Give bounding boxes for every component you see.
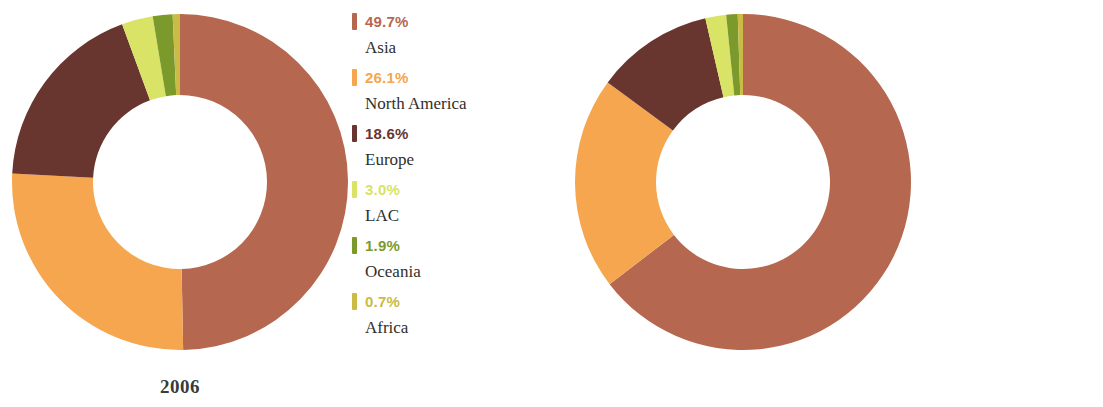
legend-item[interactable]: 18.6%Europe: [352, 120, 467, 176]
legend-item[interactable]: 26.1%North America: [352, 64, 467, 120]
legend-region-label: Oceania: [352, 259, 467, 288]
legend-percent-value: 18.6%: [365, 125, 409, 142]
donut-segment[interactable]: [12, 24, 150, 177]
legend-percent-line: 1.9%: [352, 232, 467, 259]
legend-item[interactable]: 3.0%LAC: [352, 176, 467, 232]
legend-percent-value: 3.0%: [365, 181, 400, 198]
donut-svg-2016: [573, 0, 913, 360]
donut-chart-figure: 2006 49.7%Asia26.1%North America18.6%Eur…: [0, 0, 1103, 407]
legend-swatch-icon: [352, 293, 357, 310]
legend-item[interactable]: 49.7%Asia: [352, 8, 467, 64]
legend-region-label: LAC: [352, 203, 467, 232]
legend-region-label: Europe: [352, 147, 467, 176]
legend-item[interactable]: 0.7%Africa: [352, 288, 467, 344]
chart-year-label-2006: 2006: [120, 376, 240, 398]
legend-percent-line: 3.0%: [352, 176, 467, 203]
chart-panel-2006: 2006 49.7%Asia26.1%North America18.6%Eur…: [0, 0, 560, 407]
chart-panel-2016: 2016 64.6%Asia20.5%North America11.3%Eur…: [560, 0, 1103, 407]
legend-percent-value: 49.7%: [365, 13, 409, 30]
legend-percent-value: 1.9%: [365, 237, 400, 254]
legend-swatch-icon: [352, 237, 357, 254]
legend-region-label: Africa: [352, 315, 467, 344]
legend-item[interactable]: 1.9%Oceania: [352, 232, 467, 288]
legend-swatch-icon: [352, 13, 357, 30]
legend-swatch-icon: [352, 125, 357, 142]
legend-region-label: Asia: [352, 35, 467, 64]
legend-swatch-icon: [352, 181, 357, 198]
legend-percent-line: 26.1%: [352, 64, 467, 91]
legend-percent-line: 0.7%: [352, 288, 467, 315]
donut-chart-2016: [573, 0, 913, 360]
donut-chart-2006: [10, 0, 350, 360]
legend-percent-line: 49.7%: [352, 8, 467, 35]
chart-legend-2006: 49.7%Asia26.1%North America18.6%Europe3.…: [352, 8, 467, 344]
legend-percent-line: 18.6%: [352, 120, 467, 147]
legend-region-label: North America: [352, 91, 467, 120]
donut-segment[interactable]: [180, 14, 348, 350]
legend-percent-value: 26.1%: [365, 69, 409, 86]
donut-segment[interactable]: [12, 174, 183, 350]
legend-percent-value: 0.7%: [365, 293, 400, 310]
legend-swatch-icon: [352, 69, 357, 86]
donut-svg-2006: [10, 0, 350, 360]
